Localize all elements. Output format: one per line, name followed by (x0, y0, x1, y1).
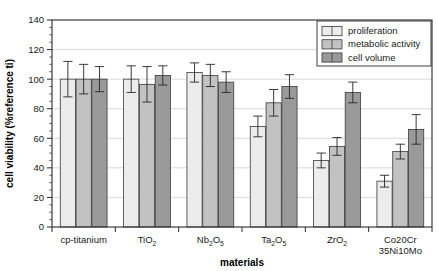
legend-label-cell-volume: cell volume (348, 52, 396, 63)
bar-Co20Cr-35Ni10Mo-proliferation (377, 181, 392, 227)
bar-Nb2O5-cell-volume (219, 82, 234, 227)
y-axis-title: cell viability (%reference ti) (4, 59, 15, 188)
bar-cp-titanium-metabolic-activity (76, 79, 91, 227)
bar-TiO2-proliferation (124, 79, 139, 227)
ytick-label: 0 (39, 221, 44, 232)
ytick-label: 60 (33, 133, 44, 144)
bar-Ta2O5-proliferation (250, 126, 265, 227)
ytick-label: 100 (28, 74, 44, 85)
bar-TiO2-metabolic-activity (139, 84, 154, 227)
xtick-label-line2: 35Ni10Mo (379, 245, 422, 256)
chart-container: 020406080100120140cell viability (%refer… (0, 0, 439, 271)
ytick-label: 20 (33, 192, 44, 203)
bar-Co20Cr-35Ni10Mo-metabolic-activity (393, 152, 408, 227)
bar-ZrO2-cell-volume (345, 92, 360, 227)
xtick-label-Ta2O5: Ta2O5 (261, 234, 286, 247)
bar-TiO2-cell-volume (155, 75, 170, 227)
bar-Nb2O5-proliferation (187, 72, 202, 227)
xtick-label-cp-titanium: cp-titanium (60, 234, 107, 245)
xtick-label-Nb2O5: Nb2O5 (197, 234, 224, 247)
xtick-label-ZrO2: ZrO2 (327, 234, 347, 247)
ytick-label: 40 (33, 162, 44, 173)
bar-cp-titanium-proliferation (60, 79, 75, 227)
ytick-label: 140 (28, 14, 44, 25)
bar-Ta2O5-cell-volume (282, 87, 297, 227)
legend: proliferationmetabolic activitycell volu… (317, 21, 431, 66)
ytick-label: 120 (28, 44, 44, 55)
bar-ZrO2-proliferation (314, 160, 329, 227)
bar-Ta2O5-metabolic-activity (266, 103, 281, 227)
legend-label-proliferation: proliferation (348, 25, 398, 36)
ytick-label: 80 (33, 103, 44, 114)
bar-cp-titanium-cell-volume (92, 79, 107, 227)
x-axis-title: materials (220, 257, 264, 268)
xtick-label-TiO2: TiO2 (138, 234, 157, 247)
bar-chart: 020406080100120140cell viability (%refer… (0, 0, 439, 271)
bar-Nb2O5-metabolic-activity (203, 75, 218, 227)
legend-label-metabolic-activity: metabolic activity (348, 38, 421, 49)
xtick-label-Co20Cr-35Ni10Mo: Co20Cr (384, 234, 417, 245)
bar-ZrO2-metabolic-activity (329, 146, 344, 227)
